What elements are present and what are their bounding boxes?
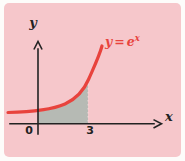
equation-base: e xyxy=(127,34,135,49)
tick-label-0: 0 xyxy=(22,125,36,136)
equation-equals: = xyxy=(114,34,124,49)
shaded-area-under-curve xyxy=(38,81,88,123)
equation-lhs: y xyxy=(105,34,112,49)
equation-exponent: x xyxy=(135,33,140,43)
figure-graph-exponential: y x 0 3 y=ex xyxy=(0,0,185,161)
y-axis-label: y xyxy=(26,16,40,29)
x-axis-label: x xyxy=(162,110,176,123)
curve-equation: y=ex xyxy=(105,36,140,49)
tick-label-3: 3 xyxy=(83,125,97,136)
